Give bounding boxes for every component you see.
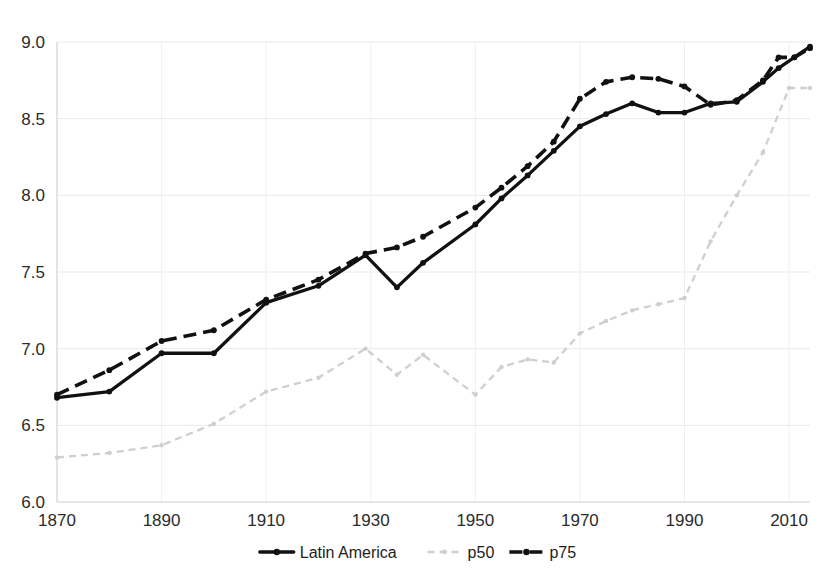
data-point-marker (212, 422, 216, 426)
series-line (57, 47, 810, 398)
data-point-marker (655, 110, 661, 116)
horizontal-gridlines (57, 42, 810, 502)
y-tick-label: 9.0 (21, 33, 45, 52)
x-tick-label: 1910 (247, 511, 285, 530)
data-point-marker (630, 308, 634, 312)
data-point-marker (656, 302, 660, 306)
data-point-marker (629, 100, 635, 106)
legend-item-p50: p50 (428, 544, 495, 561)
data-point-marker (708, 100, 714, 106)
data-point-marker (55, 455, 59, 459)
data-point-marker (525, 357, 529, 361)
data-point-marker (682, 110, 688, 116)
y-tick-label: 8.5 (21, 110, 45, 129)
x-tick-label: 1890 (143, 511, 181, 530)
data-point-marker (682, 84, 688, 90)
data-point-marker (525, 173, 531, 179)
data-point-marker (499, 185, 505, 191)
data-point-marker (395, 373, 399, 377)
data-point-marker (472, 222, 478, 228)
data-point-marker (525, 163, 531, 169)
data-point-marker (551, 148, 557, 154)
false (442, 550, 447, 555)
data-point-marker (316, 376, 320, 380)
data-point-marker (808, 86, 812, 90)
data-point-marker (776, 54, 782, 60)
series-layer (54, 44, 813, 460)
x-axis-tick-labels: 18701890191019301950197019902010 (38, 511, 808, 530)
series-p75 (54, 45, 813, 397)
data-point-marker (159, 443, 163, 447)
data-point-marker (211, 327, 217, 333)
series-line (57, 48, 810, 395)
x-tick-label: 1990 (666, 511, 704, 530)
data-point-marker (473, 392, 477, 396)
data-point-marker (106, 389, 112, 395)
x-tick-label: 1930 (352, 511, 390, 530)
data-point-marker (316, 277, 322, 283)
data-point-marker (776, 65, 782, 71)
data-point-marker (394, 284, 400, 290)
data-point-marker (708, 239, 712, 243)
series-p50 (55, 86, 812, 460)
x-tick-label: 1870 (38, 511, 76, 530)
data-point-marker (421, 353, 425, 357)
data-point-marker (211, 350, 217, 356)
x-tick-label: 1970 (561, 511, 599, 530)
y-tick-label: 7.0 (21, 340, 45, 359)
y-tick-label: 8.0 (21, 186, 45, 205)
data-point-marker (159, 338, 165, 344)
data-point-marker (316, 283, 322, 289)
data-point-marker (655, 76, 661, 82)
data-point-marker (106, 367, 112, 373)
data-point-marker (394, 245, 400, 251)
chart-legend: Latin Americap50p75 (260, 544, 576, 561)
data-point-marker (499, 196, 505, 202)
legend-item-p75: p75 (509, 544, 576, 561)
data-point-marker (735, 193, 739, 197)
chart-container: 6.06.57.07.58.08.59.0 187018901910193019… (0, 0, 821, 576)
x-tick-label: 1950 (456, 511, 494, 530)
data-point-marker (363, 252, 369, 258)
data-point-marker (264, 389, 268, 393)
false (523, 549, 529, 555)
data-point-marker (159, 350, 165, 356)
y-axis-tick-labels: 6.06.57.07.58.08.59.0 (21, 33, 45, 512)
data-point-marker (499, 365, 503, 369)
data-point-marker (682, 296, 686, 300)
data-point-marker (791, 54, 797, 60)
data-point-marker (761, 150, 765, 154)
data-point-marker (363, 346, 367, 350)
data-point-marker (604, 319, 608, 323)
data-point-marker (551, 139, 557, 145)
x-tick-label: 2010 (770, 511, 808, 530)
legend-label: Latin America (300, 544, 397, 561)
line-chart: 6.06.57.07.58.08.59.0 187018901910193019… (0, 0, 821, 576)
series-line (57, 88, 810, 458)
data-point-marker (807, 44, 813, 50)
data-point-marker (629, 74, 635, 80)
data-point-marker (760, 79, 766, 85)
data-point-marker (577, 123, 583, 129)
data-point-marker (603, 79, 609, 85)
data-point-marker (787, 86, 791, 90)
data-point-marker (54, 395, 60, 401)
data-point-marker (734, 99, 740, 105)
y-tick-label: 6.0 (21, 493, 45, 512)
legend-label: p75 (549, 544, 576, 561)
false (274, 549, 280, 555)
data-point-marker (420, 260, 426, 266)
y-tick-label: 7.5 (21, 263, 45, 282)
data-point-marker (107, 451, 111, 455)
data-point-marker (603, 111, 609, 117)
data-point-marker (552, 360, 556, 364)
data-point-marker (577, 96, 583, 102)
y-tick-label: 6.5 (21, 416, 45, 435)
legend-label: p50 (468, 544, 495, 561)
data-point-marker (420, 234, 426, 240)
data-point-marker (472, 205, 478, 211)
legend-item-latin-america: Latin America (260, 544, 397, 561)
data-point-marker (578, 331, 582, 335)
data-point-marker (263, 300, 269, 306)
